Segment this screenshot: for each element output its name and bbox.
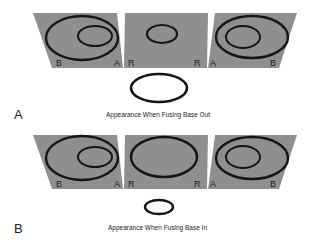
caption-b: Appearance When Fusing Base In — [108, 224, 207, 232]
panel-a-right: A B — [208, 13, 297, 68]
stereogram-figure: B A R R A B A Appearance When Fusing Bas… — [0, 0, 317, 241]
part-a: B A R R A B A Appearance When Fusing Bas… — [14, 13, 297, 122]
caption-a: Appearance When Fusing Base Out — [106, 111, 210, 119]
panel-a-left: B A — [33, 13, 123, 68]
corner-label: A — [114, 58, 120, 68]
corner-label: R — [128, 179, 135, 189]
part-label-a: A — [14, 107, 23, 122]
corner-label: B — [56, 179, 62, 189]
corner-label: B — [270, 58, 276, 68]
part-label-b: B — [14, 221, 23, 236]
panel-b-right: A B — [208, 135, 297, 189]
corner-label: R — [194, 58, 201, 68]
corner-label: A — [210, 58, 216, 68]
corner-label: A — [210, 179, 216, 189]
fused-ring-a — [131, 74, 187, 102]
corner-label: R — [194, 179, 201, 189]
part-b: B A R R A B B Appearance When Fusing Bas… — [14, 135, 297, 236]
fused-ring-b — [145, 200, 173, 214]
panel-b-left: B A — [33, 135, 123, 189]
corner-label: A — [114, 179, 120, 189]
corner-label: B — [270, 179, 276, 189]
corner-label: B — [56, 58, 62, 68]
corner-label: R — [128, 58, 135, 68]
panel-b-middle: R R — [124, 135, 208, 189]
panel-a-middle: R R — [124, 13, 208, 68]
